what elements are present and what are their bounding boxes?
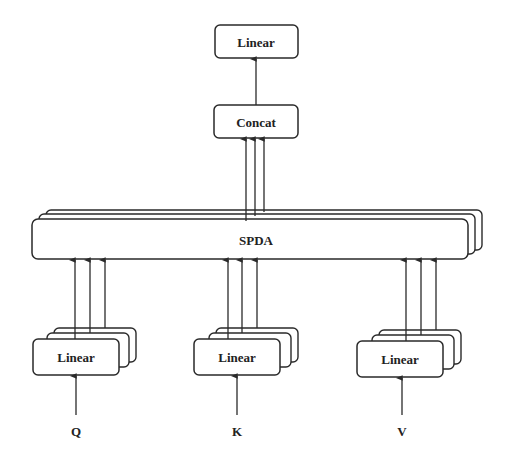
linear-output-node: Linear — [215, 25, 298, 58]
linear-k-label: Linear — [218, 350, 256, 365]
linear-k-stack: Linear — [194, 328, 298, 375]
spda-stack: SPDA — [32, 210, 482, 259]
linear-v-label: Linear — [381, 352, 419, 367]
q-input-label: Q — [71, 424, 81, 439]
spda-label: SPDA — [239, 233, 274, 248]
linear-output-label: Linear — [237, 35, 275, 50]
attention-diagram: Linear Concat SPDA Linear Q Linear — [0, 0, 509, 465]
spda-to-concat-arrows — [246, 139, 264, 221]
concat-label: Concat — [236, 115, 276, 130]
v-input-label: V — [397, 424, 407, 439]
linear-q-label: Linear — [57, 350, 95, 365]
linear-q-to-spda-arrows — [75, 260, 105, 339]
linear-k-to-spda-arrows — [228, 260, 257, 339]
concat-node: Concat — [214, 105, 298, 138]
linear-q-stack: Linear — [33, 328, 136, 375]
linear-v-stack: Linear — [357, 330, 461, 377]
linear-v-to-spda-arrows — [406, 260, 436, 341]
k-input-label: K — [232, 424, 243, 439]
